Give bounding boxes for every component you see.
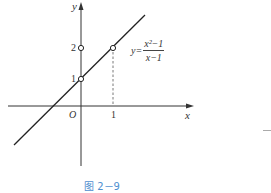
equation-numerator: x²−1 <box>143 38 164 51</box>
open-point-0-1 <box>78 76 83 81</box>
x-axis-arrow-icon <box>186 104 194 109</box>
equation-denominator: x−1 <box>146 51 162 63</box>
open-point-1-2 <box>110 45 115 50</box>
x-axis-label: x <box>185 110 190 121</box>
origin-label: O <box>69 110 76 120</box>
graph-canvas <box>0 0 271 193</box>
y-axis-arrow-icon <box>79 2 84 10</box>
margin-dash <box>263 130 271 131</box>
tick-label-y2: 2 <box>71 43 76 53</box>
equation-label: y= x²−1 x−1 <box>131 38 164 63</box>
figure-caption: 图 2－9 <box>84 178 120 193</box>
open-point-0-2 <box>78 45 83 50</box>
equation-lhs: y= <box>131 45 142 56</box>
tick-label-y1: 1 <box>71 74 76 84</box>
tick-label-x1: 1 <box>111 110 116 120</box>
y-axis-label: y <box>72 1 77 12</box>
